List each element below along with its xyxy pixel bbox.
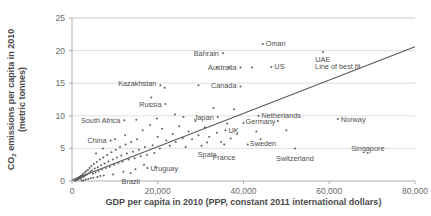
y-tick-label-5: 25 (56, 13, 66, 23)
data-point (92, 177, 94, 179)
data-point (224, 129, 226, 131)
data-point (92, 173, 94, 175)
x-axis-title: GDP per capita in 2010 (PPP, constant 20… (106, 197, 382, 207)
x-tick-labels: 020,00040,00060,00080,000 (70, 186, 429, 196)
data-point (107, 160, 109, 162)
data-point (153, 152, 155, 154)
point-label-france: France (213, 153, 236, 162)
data-point (94, 168, 96, 170)
data-point (197, 134, 199, 136)
data-point (122, 171, 124, 173)
data-point (212, 107, 214, 109)
point-label-norway: Norway (341, 115, 366, 124)
data-point (247, 143, 249, 145)
chart-canvas: OmanBahrainUAEAustraliaUSKazakhstanCanad… (0, 0, 431, 216)
data-point (100, 164, 102, 166)
data-point (174, 113, 176, 115)
data-point (152, 144, 154, 146)
data-point (185, 146, 187, 148)
data-point (104, 162, 106, 164)
data-point (178, 125, 180, 127)
data-point (83, 179, 85, 181)
y-tick-label-3: 15 (56, 78, 66, 88)
data-point (132, 151, 134, 153)
point-label-russia: Russia (139, 100, 162, 109)
x-tick-label-4: 80,000 (402, 186, 428, 196)
data-point (85, 170, 87, 172)
data-point (116, 157, 118, 159)
y-tick-labels: 0510152025 (56, 13, 66, 186)
data-point (146, 154, 148, 156)
data-point (114, 138, 116, 140)
fit-line-path (72, 47, 415, 180)
data-point (191, 138, 193, 140)
data-point (285, 129, 287, 131)
data-point (270, 66, 272, 68)
x-tick-label-2: 40,000 (231, 186, 257, 196)
data-point (149, 124, 151, 126)
data-point (96, 161, 98, 163)
point-label-canada: Canada (211, 81, 238, 90)
data-point (239, 67, 241, 69)
data-point (165, 140, 167, 142)
data-point (97, 166, 99, 168)
line-of-best-fit (72, 47, 415, 180)
data-point (322, 51, 324, 53)
data-point (164, 87, 166, 89)
point-label-uruguay: Uruguay (150, 164, 178, 173)
data-point (90, 165, 92, 167)
data-point (277, 120, 279, 122)
data-point (93, 163, 95, 165)
point-label-oman: Oman (266, 39, 286, 48)
data-point (208, 136, 210, 138)
data-point (169, 145, 171, 147)
data-point (99, 175, 101, 177)
fit-line-label: Line of best fit (315, 62, 360, 71)
data-point (175, 141, 177, 143)
point-label-singapore: Singapore (351, 144, 384, 153)
point-label-switzerland: Switzerland (276, 154, 314, 163)
data-point (90, 177, 92, 179)
data-point (130, 141, 132, 143)
data-point (134, 157, 136, 159)
y-tick-label-1: 5 (60, 143, 65, 153)
data-point (156, 117, 158, 119)
data-point (239, 85, 241, 87)
point-label-china: China (88, 136, 108, 145)
data-point (200, 145, 202, 147)
scatter-chart: OmanBahrainUAEAustraliaUSKazakhstanCanad… (0, 0, 431, 216)
point-label-sweden: Sweden (250, 139, 276, 148)
y-axis-title-line2: (metric tonnes) (17, 67, 27, 132)
data-point (144, 146, 146, 148)
data-point (294, 147, 296, 149)
point-label-kazakhstan: Kazakhstan (118, 79, 156, 88)
data-point (143, 164, 145, 166)
data-point (126, 153, 128, 155)
data-point (134, 168, 136, 170)
data-point (95, 172, 97, 174)
data-point (243, 122, 245, 124)
data-point (233, 108, 235, 110)
data-point (255, 130, 257, 132)
data-point (110, 151, 112, 153)
data-point (135, 119, 137, 121)
data-point (230, 138, 232, 140)
point-labels: OmanBahrainUAEAustraliaUSKazakhstanCanad… (81, 39, 385, 186)
data-point (106, 154, 108, 156)
data-point (123, 119, 125, 121)
data-point (125, 143, 127, 145)
data-point (197, 84, 199, 86)
data-point (120, 155, 122, 157)
y-tick-label-4: 20 (56, 46, 66, 56)
data-point (91, 170, 93, 172)
data-point (150, 97, 152, 99)
data-point (124, 134, 126, 136)
data-point (217, 116, 219, 118)
data-point (226, 123, 228, 125)
data-point (112, 173, 114, 175)
data-point (81, 180, 83, 182)
point-label-uk: UK (228, 126, 238, 135)
point-label-japan: Japan (194, 113, 214, 122)
data-point (172, 133, 174, 135)
point-label-us: US (274, 62, 284, 71)
